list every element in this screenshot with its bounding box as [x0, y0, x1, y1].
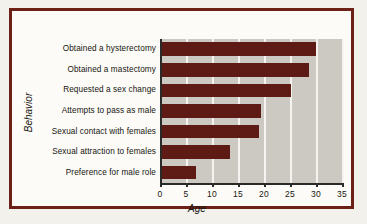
y-axis-title: Behavior [23, 83, 34, 143]
plot-area [160, 39, 342, 183]
category-label: Sexual attraction to females [52, 147, 156, 156]
bar [160, 145, 230, 159]
x-axis-tick-label: 10 [200, 189, 224, 199]
category-label: Obtained a mastectomy [67, 65, 156, 74]
y-axis-line [160, 39, 162, 184]
bar [160, 104, 261, 118]
category-label: Preference for male role [66, 168, 156, 177]
bar-row [160, 104, 342, 118]
bar [160, 125, 259, 139]
bar-row [160, 166, 342, 180]
bar-row [160, 125, 342, 139]
bar [160, 63, 309, 77]
x-axis-tick [160, 183, 162, 187]
bar [160, 84, 291, 98]
bar-row [160, 42, 342, 56]
bar-row [160, 63, 342, 77]
x-axis-tick [316, 183, 318, 187]
x-axis-tick-label: 5 [174, 189, 198, 199]
x-axis-tick [264, 183, 266, 187]
category-labels: Obtained a hysterectomyObtained a mastec… [12, 39, 156, 183]
bar [160, 166, 196, 180]
category-label: Attempts to pass as male [62, 106, 156, 115]
chart-figure: Obtained a hysterectomyObtained a mastec… [0, 0, 367, 224]
x-axis-tick [186, 183, 188, 187]
x-axis-title: Age [160, 203, 260, 214]
x-axis-tick [342, 183, 344, 187]
category-label: Obtained a hysterectomy [63, 44, 156, 53]
x-axis-tick-label: 0 [148, 189, 172, 199]
x-axis-tick [290, 183, 292, 187]
bar-row [160, 145, 342, 159]
x-axis-tick-label: 30 [304, 189, 328, 199]
bar [160, 42, 316, 56]
x-axis-tick-label: 15 [226, 189, 250, 199]
x-axis-tick-label: 20 [252, 189, 276, 199]
x-axis-tick-label: 25 [278, 189, 302, 199]
x-axis-tick [238, 183, 240, 187]
bar-row [160, 84, 342, 98]
category-label: Requested a sex change [63, 85, 156, 94]
category-label: Sexual contact with females [52, 127, 156, 136]
x-axis-tick [212, 183, 214, 187]
x-axis-tick-label: 35 [330, 189, 354, 199]
chart-frame: Obtained a hysterectomyObtained a mastec… [9, 8, 354, 209]
gridline [342, 39, 344, 183]
